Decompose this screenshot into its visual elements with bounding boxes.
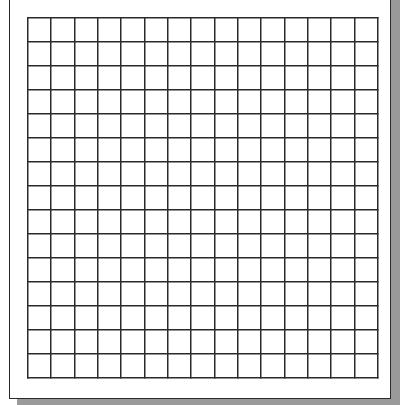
- square-grid: [27, 17, 377, 377]
- grid-lines: [27, 17, 379, 379]
